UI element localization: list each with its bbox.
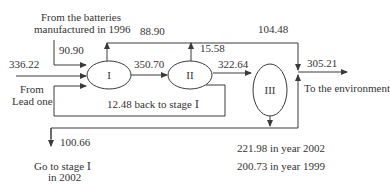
ii-to-iii-value: 322.64 — [218, 58, 248, 70]
go-stage-label-line2: in 2002 — [48, 171, 81, 183]
year-2002-label: 221.98 in year 2002 — [237, 142, 325, 154]
batteries-source-label-line2: manufactured in 1996 — [34, 23, 131, 35]
top-bypass-value: 88.90 — [140, 25, 165, 37]
lead-source-label: From — [20, 83, 44, 95]
lead-input-value: 336.22 — [9, 58, 39, 70]
go-stage-value: 100.66 — [60, 136, 90, 148]
env-label: To the environment — [304, 82, 390, 94]
top-right-value: 104.48 — [258, 23, 288, 35]
node-II-label: II — [182, 69, 198, 81]
batteries-value: 90.90 — [59, 44, 84, 56]
node-I-label: I — [104, 69, 114, 81]
env-output-value: 305.21 — [307, 57, 337, 69]
i-to-ii-value: 350.70 — [134, 58, 164, 70]
back-to-stage-label: 12.48 back to stage Ⅰ — [107, 98, 199, 110]
ii-up-value: 15.58 — [200, 42, 225, 54]
node-III-label: III — [260, 84, 280, 96]
lead-source-label-line2: Lead one — [12, 95, 53, 107]
year-1999-label: 200.73 in year 1999 — [237, 160, 325, 172]
batteries-source-label: From the batteries — [41, 11, 121, 23]
